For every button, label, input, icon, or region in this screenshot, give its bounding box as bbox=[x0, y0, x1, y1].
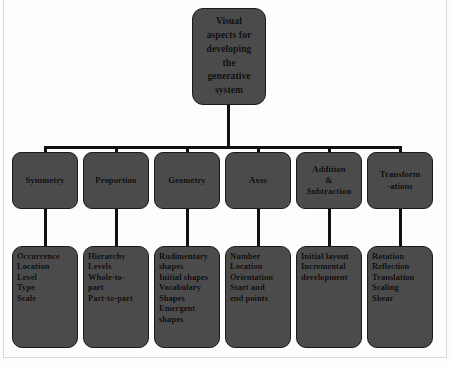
node-category-axes: Axes bbox=[225, 152, 291, 209]
connector-drop-detail-3 bbox=[186, 207, 189, 248]
connector-drop-detail-1 bbox=[44, 207, 47, 248]
connector-drop-detail-5 bbox=[328, 207, 331, 248]
node-category-axes-label: Axes bbox=[249, 175, 267, 186]
node-detail-transformations: Rotation Reflection Translation Scaling … bbox=[367, 246, 433, 348]
node-category-geometry: Geometry bbox=[154, 152, 220, 209]
node-detail-axes: Number Location Orientation Start and en… bbox=[225, 246, 291, 348]
node-root-label: Visual aspects for developing the genera… bbox=[207, 15, 252, 98]
connector-drop-detail-4 bbox=[257, 207, 260, 248]
node-detail-proportion-label: Hierarchy Levels Whole-to- part Part-to-… bbox=[84, 247, 133, 304]
node-category-proportion-label: Proportion bbox=[95, 175, 136, 186]
node-category-symmetry: Symmetry bbox=[12, 152, 78, 209]
node-detail-symmetry: Occurrence Location Level Type Scale bbox=[12, 246, 78, 348]
node-category-proportion: Proportion bbox=[83, 152, 149, 209]
node-category-transformations: Transform -ations bbox=[367, 152, 433, 209]
connector-drop-detail-6 bbox=[399, 207, 402, 248]
connector-drop-detail-2 bbox=[115, 207, 118, 248]
node-root-visual-aspects: Visual aspects for developing the genera… bbox=[192, 8, 266, 105]
connector-root-trunk bbox=[227, 104, 230, 148]
node-category-geometry-label: Geometry bbox=[168, 175, 206, 186]
node-category-addition-subtraction-label: Addition & Subtraction bbox=[307, 164, 352, 198]
node-detail-geometry: Rudimentary shapes Initial shapes Vocabu… bbox=[154, 246, 220, 348]
node-category-transformations-label: Transform -ations bbox=[380, 169, 420, 191]
node-category-addition-subtraction: Addition & Subtraction bbox=[296, 152, 362, 209]
hierarchy-diagram: Visual aspects for developing the genera… bbox=[0, 0, 451, 366]
node-detail-transformations-label: Rotation Reflection Translation Scaling … bbox=[368, 247, 414, 304]
node-detail-addition-subtraction-label: Initial layout Incremental development bbox=[297, 247, 349, 283]
connector-horizontal-bus bbox=[44, 146, 400, 149]
node-category-symmetry-label: Symmetry bbox=[26, 175, 65, 186]
node-detail-addition-subtraction: Initial layout Incremental development bbox=[296, 246, 362, 348]
node-detail-proportion: Hierarchy Levels Whole-to- part Part-to-… bbox=[83, 246, 149, 348]
node-detail-axes-label: Number Location Orientation Start and en… bbox=[226, 247, 273, 304]
node-detail-symmetry-label: Occurrence Location Level Type Scale bbox=[13, 247, 60, 304]
node-detail-geometry-label: Rudimentary shapes Initial shapes Vocabu… bbox=[155, 247, 208, 325]
